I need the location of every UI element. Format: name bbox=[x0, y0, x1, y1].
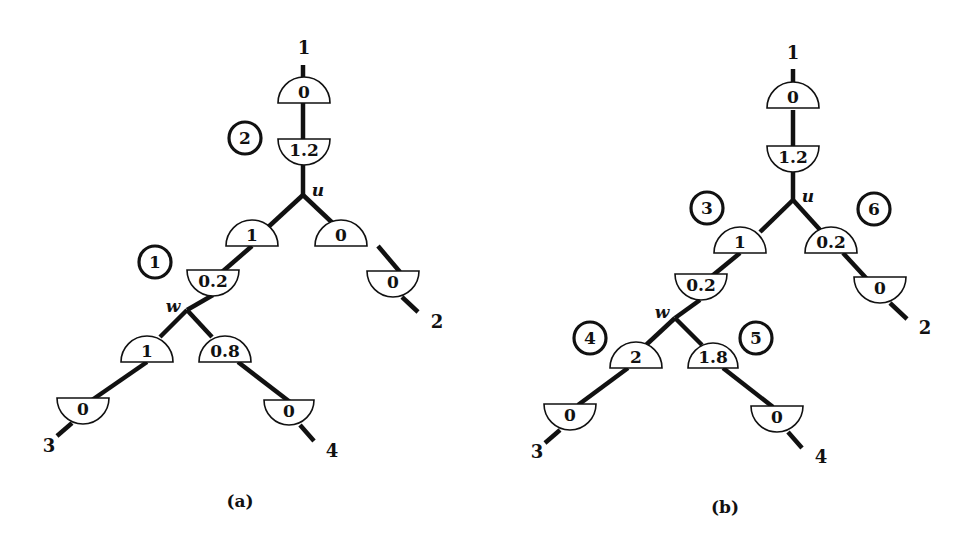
semicircle-value: 0 bbox=[278, 77, 330, 103]
circled-number: 2 bbox=[229, 122, 261, 154]
semicircle-label: 1 bbox=[141, 341, 153, 361]
terminal-label: 2 bbox=[431, 311, 444, 332]
panel-caption: (b) bbox=[711, 497, 739, 517]
tree-edge bbox=[675, 300, 700, 318]
semicircle-label: 2 bbox=[630, 347, 642, 367]
tree-edge bbox=[712, 253, 740, 276]
semicircle-value: 2 bbox=[610, 342, 662, 368]
circled-number: 6 bbox=[858, 193, 890, 225]
semicircle-value: 0.2 bbox=[187, 270, 239, 296]
tree-edge bbox=[890, 303, 907, 319]
diagram-canvas: 01.2100.2010.800211234uw(a) 01.210.20.20… bbox=[0, 0, 969, 553]
circled-number-label: 5 bbox=[750, 328, 762, 348]
tree-edge bbox=[187, 295, 213, 310]
tree-edge bbox=[238, 362, 290, 402]
semicircle-label: 0 bbox=[874, 278, 886, 298]
semicircle-value: 0 bbox=[854, 277, 906, 303]
node-label: w bbox=[166, 296, 182, 316]
terminal-label: 4 bbox=[326, 440, 339, 461]
semicircle-label: 0 bbox=[387, 272, 399, 292]
circled-number: 5 bbox=[740, 322, 772, 354]
circled-number: 4 bbox=[574, 322, 606, 354]
semicircle-value: 0 bbox=[367, 271, 419, 297]
circled-number-label: 3 bbox=[701, 198, 713, 218]
tree-edge bbox=[92, 362, 147, 400]
node-label: w bbox=[655, 302, 671, 322]
tree-edge bbox=[265, 195, 303, 230]
tree-edge bbox=[578, 368, 628, 405]
tree-edge bbox=[378, 246, 400, 272]
semicircle-value: 1.2 bbox=[767, 146, 819, 172]
tree-edge bbox=[788, 432, 802, 448]
panel-caption: (a) bbox=[226, 491, 253, 511]
semicircle-label: 0 bbox=[298, 82, 310, 102]
terminal-label: 4 bbox=[815, 446, 828, 467]
semicircle-label: 0 bbox=[77, 399, 89, 419]
tree-edge bbox=[300, 425, 314, 441]
semicircle-label: 1 bbox=[734, 232, 746, 252]
panel-a: 01.2100.2010.800211234uw(a) bbox=[43, 37, 444, 511]
semicircle-label: 1.2 bbox=[778, 147, 808, 167]
semicircle-label: 1 bbox=[246, 225, 258, 245]
semicircle-label: 1.8 bbox=[698, 347, 728, 367]
semicircle-value: 1.2 bbox=[278, 139, 330, 165]
tree-edge bbox=[57, 423, 72, 436]
panel-b: 01.210.20.2021.80036451234uw(b) bbox=[531, 42, 932, 517]
terminal-label: 3 bbox=[43, 435, 56, 456]
tree-edge bbox=[402, 297, 418, 312]
circled-number: 3 bbox=[691, 192, 723, 224]
tree-edge bbox=[760, 200, 793, 232]
semicircle-label: 0 bbox=[335, 225, 347, 245]
semicircle-label: 1.2 bbox=[289, 140, 319, 160]
tree-edge bbox=[187, 310, 212, 337]
semicircle-value: 0 bbox=[57, 398, 109, 424]
node-label: u bbox=[802, 186, 814, 206]
semicircle-value: 0.2 bbox=[805, 227, 857, 253]
semicircle-label: 0.2 bbox=[686, 275, 716, 295]
circled-number-label: 6 bbox=[868, 199, 880, 219]
semicircle-value: 0.8 bbox=[199, 336, 251, 362]
circled-number: 1 bbox=[139, 246, 171, 278]
tree-edge bbox=[545, 430, 560, 443]
semicircle-value: 0 bbox=[264, 400, 314, 425]
semicircle-label: 0 bbox=[771, 407, 783, 427]
semicircle-value: 1 bbox=[714, 227, 766, 253]
semicircle-label: 0 bbox=[283, 401, 295, 421]
semicircle-value: 0 bbox=[767, 82, 819, 108]
circled-number-label: 4 bbox=[584, 328, 596, 348]
tree-edge bbox=[646, 318, 675, 345]
terminal-label: 3 bbox=[531, 441, 544, 462]
semicircle-value: 0 bbox=[315, 220, 367, 246]
semicircle-label: 0 bbox=[787, 87, 799, 107]
tree-edge bbox=[723, 368, 773, 407]
terminal-label: 1 bbox=[787, 42, 800, 63]
circled-number-label: 1 bbox=[149, 252, 161, 272]
node-label: u bbox=[312, 180, 324, 200]
tree-edge bbox=[843, 253, 867, 279]
tree-edge bbox=[222, 246, 252, 272]
terminal-label: 1 bbox=[298, 37, 311, 58]
semicircle-label: 0.2 bbox=[816, 232, 846, 252]
semicircle-value: 0 bbox=[544, 404, 596, 430]
semicircle-value: 0 bbox=[751, 406, 803, 432]
semicircle-value: 1.8 bbox=[688, 343, 738, 368]
semicircle-label: 0.2 bbox=[198, 271, 228, 291]
semicircle-label: 0 bbox=[564, 405, 576, 425]
tree-edge bbox=[675, 318, 702, 345]
semicircle-value: 1 bbox=[121, 336, 173, 362]
semicircle-label: 0.8 bbox=[210, 341, 240, 361]
semicircle-value: 0.2 bbox=[675, 274, 727, 300]
terminal-label: 2 bbox=[919, 317, 932, 338]
circled-number-label: 2 bbox=[239, 128, 251, 148]
